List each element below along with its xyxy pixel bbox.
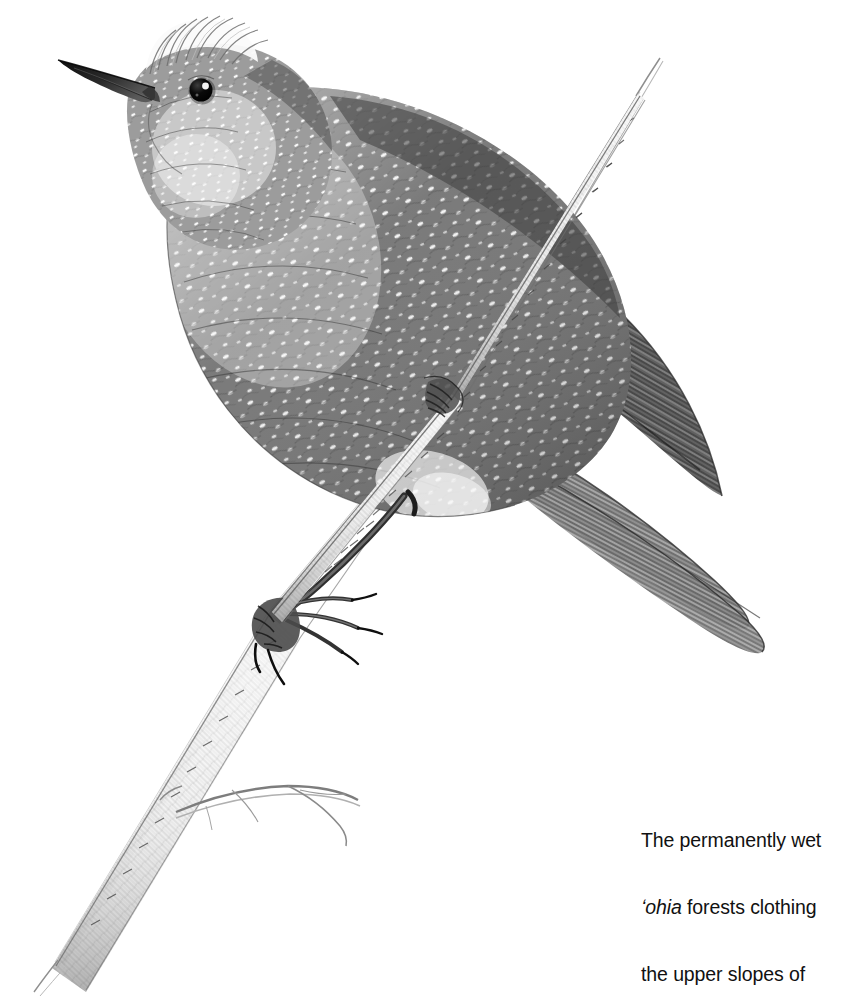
caption-italic-word: ʻohia [641,896,682,918]
caption-line-2: ʻohia forests clothing [641,896,863,918]
caption-text: The permanently wet ʻohia forests clothi… [641,784,863,1006]
caption-line-2-rest: forests clothing [682,896,817,918]
caption-line-3: the upper slopes of [641,963,863,985]
caption-line-1: The permanently wet [641,829,863,851]
